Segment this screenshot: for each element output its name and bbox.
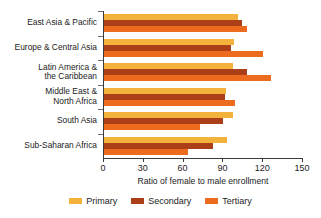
bar-tertiary [104,75,271,81]
x-axis-tick-label: 60 [178,163,188,174]
legend-swatch-icon [69,198,82,204]
legend-label: Primary [86,196,117,206]
bar-tertiary [104,26,247,32]
plot-area: East Asia & PacificEurope & Central Asia… [0,0,321,218]
x-axis-tick-label: 120 [255,163,270,174]
x-axis-tick [222,158,223,162]
category-label: East Asia & Pacific [27,18,97,28]
category-label: Sub-Saharan Africa [24,141,97,151]
legend-label: Tertiary [222,196,252,206]
category-label: Middle East & North Africa [45,87,97,106]
x-axis-tick-label: 0 [100,163,105,174]
legend-swatch-icon [205,198,218,204]
x-axis-tick [262,158,263,162]
legend-item-primary[interactable]: Primary [69,196,117,206]
x-axis-tick-label: 150 [294,163,309,174]
x-axis-tick [143,158,144,162]
bar-group [104,137,303,155]
bar-group [104,112,303,130]
x-axis-line [103,158,303,159]
legend-item-secondary[interactable]: Secondary [131,196,191,206]
x-axis-tick-label: 90 [217,163,227,174]
bar-tertiary [104,124,200,130]
bar-tertiary [104,149,188,155]
category-label: South Asia [57,116,97,126]
x-axis-tick-label: 30 [138,163,148,174]
bar-group [104,88,303,106]
category-label: Europe & Central Asia [15,43,97,53]
legend-swatch-icon [131,198,144,204]
legend-label: Secondary [148,196,191,206]
bar-group [104,39,303,57]
x-axis-tick [103,158,104,162]
chart-legend: PrimarySecondaryTertiary [0,196,321,206]
y-axis-line [103,11,104,158]
category-axis-labels: East Asia & PacificEurope & Central Asia… [0,11,100,158]
bar-tertiary [104,51,263,57]
x-axis-tick [183,158,184,162]
category-label: Latin America & the Caribbean [38,63,97,82]
x-axis-tick [302,158,303,162]
bar-group [104,14,303,32]
legend-item-tertiary[interactable]: Tertiary [205,196,252,206]
bar-tertiary [104,100,235,106]
bar-group [104,63,303,81]
x-axis-title: Ratio of female to male enrollment [103,176,303,186]
bar-chart: East Asia & PacificEurope & Central Asia… [0,0,321,218]
